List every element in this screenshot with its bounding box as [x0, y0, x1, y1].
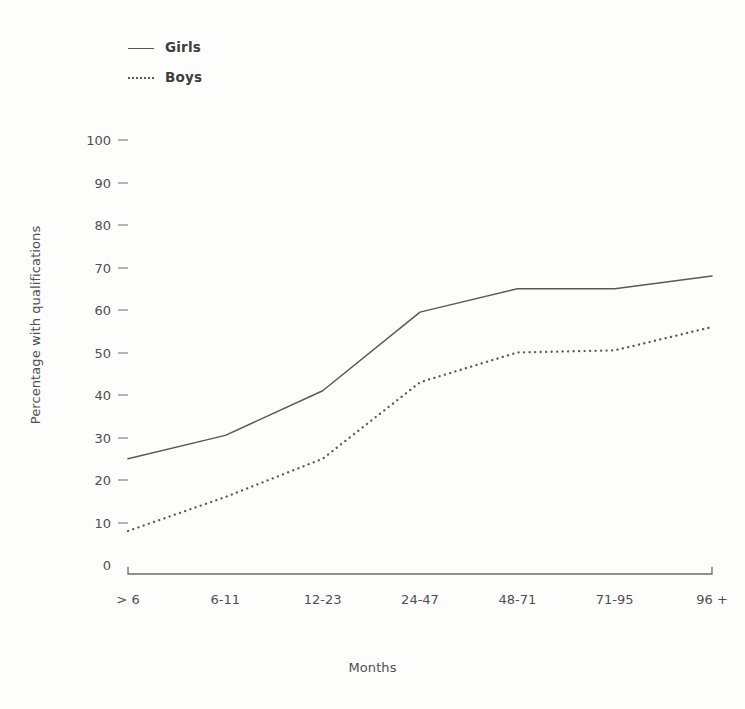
- x-tick-label: 6-11: [211, 592, 241, 607]
- x-tick-label: 71-95: [596, 592, 634, 607]
- x-axis-line: [128, 567, 712, 574]
- x-tick-label: 12-23: [304, 592, 342, 607]
- x-tick-label: 96 +: [696, 592, 728, 607]
- series-line-girls: [128, 276, 712, 459]
- x-axis-title: Months: [0, 660, 745, 675]
- x-tick-label: 48-71: [498, 592, 536, 607]
- chart-figure: Girls Boys Percentage with qualification…: [0, 0, 745, 709]
- series-line-boys: [128, 327, 712, 531]
- x-tick-label: 24-47: [401, 592, 439, 607]
- x-tick-label: > 6: [116, 592, 139, 607]
